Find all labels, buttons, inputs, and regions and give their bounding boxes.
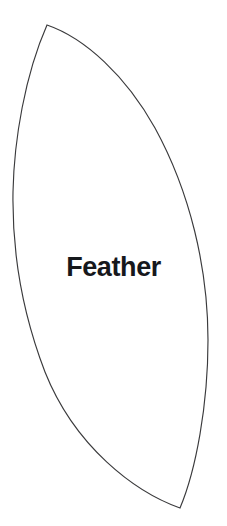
- feather-template-canvas: Feather: [0, 0, 227, 526]
- feather-shape-label: Feather: [0, 252, 227, 283]
